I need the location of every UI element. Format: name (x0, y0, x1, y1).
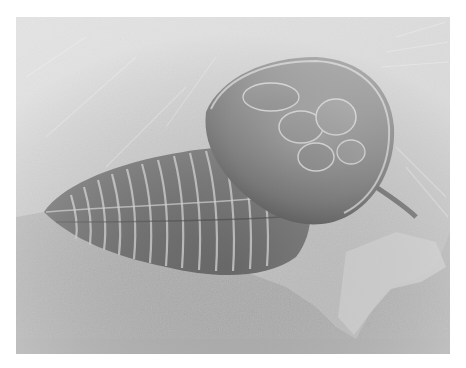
trilobite-photo (16, 17, 450, 354)
trilobite-illustration (16, 17, 450, 354)
vignette (16, 17, 450, 354)
